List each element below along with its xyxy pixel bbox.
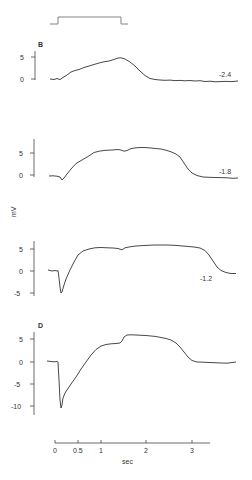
- annotation-value: -2.4: [219, 71, 231, 78]
- y-axis-unit-label: mV: [10, 206, 17, 217]
- panel-b: B 5 0 -2.4: [20, 41, 238, 83]
- annotation-value: -1.8: [219, 168, 231, 175]
- y-tick-label: 0: [20, 76, 24, 83]
- y-tick-label: 5: [19, 246, 23, 253]
- trace-panel-3: [48, 245, 236, 293]
- figure: B 5 0 -2.4 5 0 -1.8 mV 5 0 -5 -1.2 D: [0, 0, 252, 480]
- y-tick-label: -5: [14, 290, 20, 297]
- y-tick-label: 0: [19, 268, 23, 275]
- time-axis: 0 0.5 1 2 3 sec: [53, 440, 210, 465]
- y-tick-label: 0: [19, 359, 23, 366]
- panel-label-b: B: [38, 41, 43, 48]
- trace-panel-d: [47, 335, 236, 408]
- annotation-value: -1.2: [200, 275, 212, 282]
- y-tick-label: -10: [11, 403, 21, 410]
- y-tick-label: 5: [20, 54, 24, 61]
- y-tick-label: -5: [14, 381, 20, 388]
- trace-panel-2: [49, 148, 238, 181]
- trace-panel-b: [50, 58, 238, 82]
- y-tick-label: 5: [19, 150, 23, 157]
- y-tick-label: 5: [19, 336, 23, 343]
- x-tick-label: 3: [190, 447, 194, 454]
- stimulus-trace: [50, 17, 128, 24]
- panel-3: 5 0 -5 -1.2: [14, 241, 236, 297]
- y-tick-label: 0: [19, 172, 23, 179]
- panel-2: 5 0 -1.8: [19, 139, 238, 180]
- x-tick-label: 1: [99, 447, 103, 454]
- x-tick-label: 0: [53, 447, 57, 454]
- x-tick-label: 2: [144, 447, 148, 454]
- x-tick-label: 0.5: [73, 447, 83, 454]
- panel-label-d: D: [38, 322, 43, 329]
- panel-d: D 5 0 -5 -10: [11, 322, 236, 415]
- x-axis-unit-label: sec: [122, 458, 133, 465]
